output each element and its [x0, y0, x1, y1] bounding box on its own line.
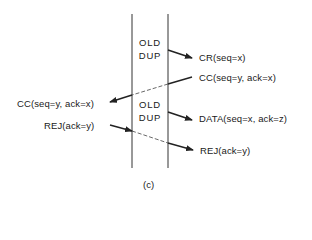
- cc-right-label: CC(seq=y, ack=x): [199, 72, 276, 83]
- old-dup-top: OLD DUP: [132, 36, 168, 62]
- old-dup-bottom: OLD DUP: [132, 98, 168, 124]
- old-dup-bottom-line2: DUP: [132, 111, 168, 124]
- cr-label: CR(seq=x): [199, 52, 246, 63]
- rej-right-label: REJ(ack=y): [200, 145, 250, 156]
- old-dup-top-line1: OLD: [132, 36, 168, 49]
- rej-left-label: REJ(ack=y): [44, 120, 94, 131]
- data-label: DATA(seq=x, ack=z): [199, 113, 287, 124]
- rej-arrow-start: [110, 125, 132, 131]
- cc-arrow-start: [168, 77, 192, 84]
- figure-caption: (c): [143, 179, 154, 190]
- data-arrow: [168, 112, 192, 120]
- cc-left-label: CC(seq=y, ack=x): [17, 98, 94, 109]
- rej-arrow-dashed: [132, 131, 168, 143]
- old-dup-bottom-line1: OLD: [132, 98, 168, 111]
- old-dup-top-line2: DUP: [132, 49, 168, 62]
- rej-arrow-end: [168, 143, 193, 150]
- cc-arrow-dashed: [132, 84, 168, 95]
- cc-arrow-end: [110, 95, 132, 102]
- cr-arrow: [168, 50, 192, 58]
